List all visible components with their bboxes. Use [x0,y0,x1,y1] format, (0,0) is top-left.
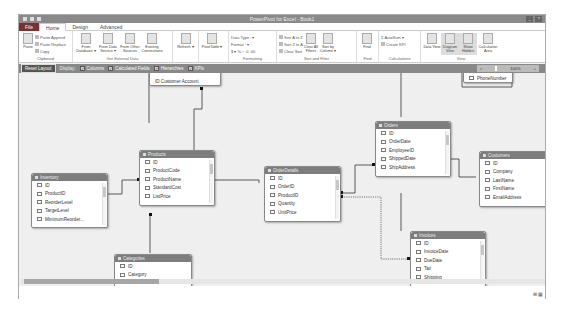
table-field[interactable]: Quantity [265,200,340,209]
tab-design[interactable]: Design [66,23,94,31]
clear-sort-button[interactable]: Clear Sort [279,48,303,54]
table-field[interactable]: EmailAddress [480,193,545,202]
zoom-thumb[interactable] [495,66,497,71]
paste-append-button[interactable]: Paste Append [35,34,66,40]
table-field[interactable]: PhoneNumber [464,74,512,83]
zoom-slider[interactable]: ⌕ 100% + [477,65,539,72]
find-button[interactable]: Find [359,33,375,55]
hierarchies-checkbox[interactable]: ✓Hierarchies [154,66,184,71]
help-button[interactable]: ? [535,16,542,22]
tab-file[interactable]: File [19,23,39,31]
diagram-view-button[interactable]: Diagram View [441,33,459,55]
table-field[interactable]: DueDate [411,256,485,265]
horizontal-scrollbar[interactable] [21,279,545,284]
table-partial-top[interactable]: ID Customer Account [149,73,221,86]
create-kpi-button[interactable]: Create KPI [381,41,406,47]
scroll-thumb[interactable] [336,180,339,190]
table-field[interactable]: TargetLevel [32,207,107,216]
autosum-button[interactable]: ΣAutoSum ▾ [381,34,406,40]
paste-replace-button[interactable]: Paste Replace [35,41,66,47]
table-field[interactable]: ProductID [32,190,107,199]
table-field[interactable]: ProductID [265,191,340,200]
table-field[interactable]: UnitPrice [265,208,340,217]
sort-by-column-button[interactable]: Sort by Column ▾ [319,33,337,55]
table-inventory[interactable]: Inventory ID ProductID ReorderLevel Targ… [31,173,108,228]
table-field[interactable]: ProductName [140,175,214,184]
tab-home[interactable]: Home [39,23,66,31]
table-field[interactable]: LastName [480,176,545,185]
tab-advanced[interactable]: Advanced [94,23,128,31]
scroll-thumb[interactable] [103,187,106,197]
table-field[interactable]: ID [480,159,545,168]
existing-connections-button[interactable]: Existing Connections [141,33,163,55]
scroll-thumb[interactable] [446,135,449,145]
from-other-sources-button[interactable]: From Other Sources [119,33,141,55]
sort-a-z-button[interactable]: Sort A to Z [279,34,303,40]
scroll-thumb[interactable] [210,164,213,174]
table-field[interactable]: Company [480,168,545,177]
clear-all-filters-button[interactable]: Clear All Filters [303,33,319,55]
table-field[interactable]: FirstName [480,185,545,194]
show-hidden-button[interactable]: Show Hidden [459,33,477,55]
table-scrollbar[interactable] [335,176,339,219]
scroll-thumb[interactable] [481,245,484,255]
table-field[interactable]: ID [411,239,485,248]
pivottable-button[interactable]: PivotTable ▾ [201,33,223,55]
from-data-service-button[interactable]: From Data Service ▾ [97,33,119,55]
calculation-area-button[interactable]: Calculation Area [477,33,499,55]
columns-checkbox[interactable]: ✓Columns [80,66,105,71]
table-scrollbar[interactable] [102,183,106,225]
table-orders[interactable]: Orders ID OrderDate EmployeeID ShippedDa… [375,121,451,177]
table-field[interactable]: EmployeeID [376,146,450,155]
reset-layout-button[interactable]: Reset Layout [21,64,56,73]
table-field[interactable]: InvoiceDate [411,248,485,257]
table-field[interactable]: MinimumReorder... [32,215,107,224]
diagram-canvas[interactable]: ID Customer Account PhoneNumber Inventor… [19,73,545,286]
table-field[interactable]: ID [140,158,214,167]
table-field[interactable]: OrderDate [376,138,450,147]
copy-button[interactable]: Copy [35,48,66,54]
sort-z-a-button[interactable]: Sort Z to A [279,41,303,47]
refresh-button[interactable]: Refresh ▾ [175,33,196,55]
table-field[interactable]: ProductCode [140,167,214,176]
table-header[interactable]: Inventory [32,174,107,181]
from-database-button[interactable]: From Database ▾ [75,33,97,55]
kpis-checkbox[interactable]: ✓KPIs [188,66,205,71]
data-view-button[interactable]: Data View [423,33,441,55]
zoom-in-icon[interactable]: + [534,66,536,71]
table-field[interactable]: ID [32,181,107,190]
table-field[interactable]: ID [265,174,340,183]
table-header[interactable]: OrderDetails [265,167,340,174]
view-toggle-icons[interactable]: ⊞ ▦ [533,291,543,297]
table-field[interactable]: ID [115,262,191,271]
table-field[interactable]: Category [115,271,191,280]
format-dropdown[interactable]: Format : ▾ [231,41,255,47]
table-scrollbar[interactable] [445,131,449,174]
calculated-fields-checkbox[interactable]: ✓Calculated Fields [108,66,150,71]
table-field[interactable]: ListPrice [140,192,214,201]
table-field[interactable]: ShipAddress [376,163,450,172]
table-products[interactable]: Products ID ProductCode ProductName Stan… [139,150,215,206]
table-field[interactable]: ID [376,129,450,138]
table-header[interactable]: Categories [115,255,191,262]
table-header[interactable]: Customers [480,152,545,159]
table-header[interactable]: Invoices [411,232,485,239]
table-field[interactable]: ReorderLevel [32,198,107,207]
number-format-buttons[interactable]: $ ▾ % ↑ .0 .00 [231,48,255,54]
paste-button[interactable]: Paste [21,33,35,55]
table-field[interactable]: StandardCost [140,184,214,193]
table-invoices[interactable]: Invoices ID InvoiceDate DueDate Tax Ship… [410,231,486,286]
table-scrollbar[interactable] [209,160,213,203]
table-orderdetails[interactable]: OrderDetails ID OrderID ProductID Quanti… [264,166,341,222]
data-type-dropdown[interactable]: Data Type : ▾ [231,34,255,40]
scroll-thumb[interactable] [24,279,159,284]
table-field[interactable]: ShippedDate [376,155,450,164]
table-header[interactable]: Orders [376,122,450,129]
table-header[interactable]: Products [140,151,214,158]
table-customers[interactable]: Customers ID Company LastName FirstName … [479,151,545,207]
zoom-out-icon[interactable]: ⌕ [480,66,482,71]
table-scrollbar[interactable] [480,241,484,284]
table-field[interactable]: Tax [411,265,485,274]
table-partial-top-right[interactable]: PhoneNumber [463,73,513,83]
minimize-button[interactable]: _ [526,16,533,22]
